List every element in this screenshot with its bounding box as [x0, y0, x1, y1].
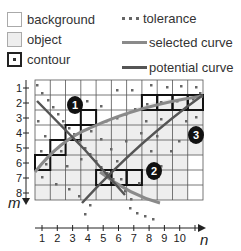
x-axis-label: n — [200, 231, 208, 248]
y-axis — [23, 80, 29, 200]
svg-text:1: 1 — [72, 99, 78, 111]
y-axis-arrow-icon — [22, 198, 30, 205]
svg-text:8: 8 — [146, 232, 152, 244]
svg-text:6: 6 — [115, 232, 121, 244]
svg-text:3: 3 — [193, 129, 199, 141]
x-axis — [35, 225, 200, 231]
svg-text:4: 4 — [85, 232, 91, 244]
svg-text:1: 1 — [16, 82, 22, 94]
x-axis-ticks: 1 2 3 4 5 6 7 8 9 10 — [39, 232, 186, 244]
y-axis-label: m — [8, 194, 21, 211]
svg-text:3: 3 — [16, 112, 22, 124]
svg-text:6: 6 — [16, 157, 22, 169]
svg-text:2: 2 — [151, 165, 157, 177]
svg-text:1: 1 — [39, 232, 45, 244]
svg-text:3: 3 — [70, 232, 76, 244]
marker-1: 1 — [67, 96, 83, 114]
svg-text:7: 7 — [16, 172, 22, 184]
svg-text:4: 4 — [16, 127, 22, 139]
svg-text:5: 5 — [16, 142, 22, 154]
grid-diagram: 1 2 3 1 2 3 4 5 6 7 8 m — [0, 0, 241, 251]
svg-text:5: 5 — [100, 232, 106, 244]
svg-text:7: 7 — [131, 232, 137, 244]
svg-text:2: 2 — [54, 232, 60, 244]
marker-3: 3 — [188, 126, 204, 144]
svg-text:2: 2 — [16, 97, 22, 109]
svg-text:10: 10 — [174, 232, 186, 244]
y-axis-ticks: 1 2 3 4 5 6 7 8 — [16, 82, 22, 199]
marker-2: 2 — [146, 162, 162, 180]
svg-text:9: 9 — [161, 232, 167, 244]
